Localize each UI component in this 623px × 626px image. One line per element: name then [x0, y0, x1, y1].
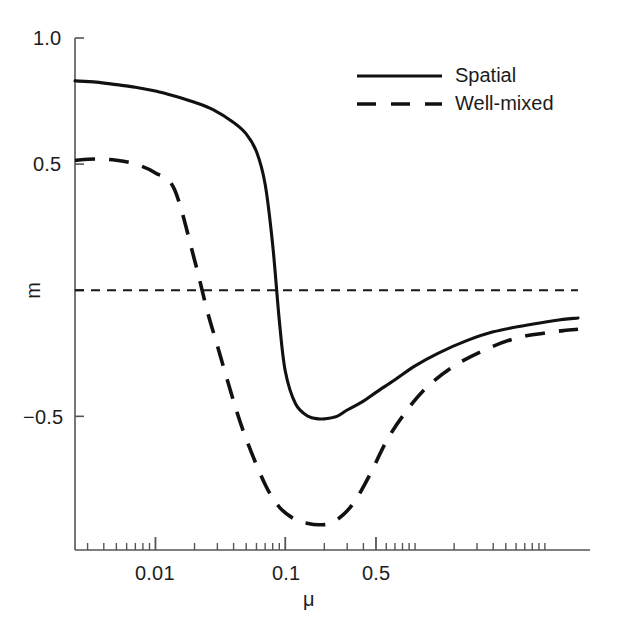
legend-label-well-mixed: Well-mixed: [455, 92, 554, 115]
legend-label-spatial: Spatial: [455, 64, 516, 87]
series-line-well-mixed: [75, 159, 578, 525]
y-tick-label-1: 1.0: [33, 27, 61, 50]
x-tick-label-3: 0.5: [362, 562, 390, 585]
x-tick-label-1: 0.01: [135, 562, 175, 585]
y-axis-ticks: [75, 38, 84, 416]
x-axis-ticks: [88, 537, 545, 550]
figure-container: 1.0 0.5 −0.5 m 0.01 0.1 0.5 μ Spatial We…: [0, 0, 623, 626]
x-axis-title: μ: [303, 588, 315, 611]
x-tick-label-2: 0.1: [272, 562, 300, 585]
y-tick-label-2: 0.5: [33, 153, 61, 176]
y-axis-title: m: [22, 282, 45, 299]
series-line-spatial: [75, 81, 578, 419]
y-tick-label-3: −0.5: [23, 406, 63, 429]
